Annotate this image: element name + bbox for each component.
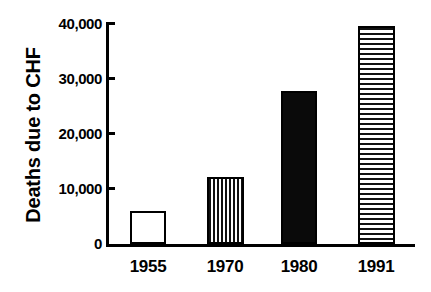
bar-1970	[207, 177, 244, 244]
bar-series	[0, 0, 431, 292]
bar-1980	[281, 91, 317, 244]
bar-1991	[358, 26, 395, 244]
bar-1955	[130, 211, 166, 244]
x-axis-tick-label-1991: 1991	[331, 257, 421, 277]
bar-chart-figure: Deaths due to CHF 40,000 30,000 20,000 1…	[0, 0, 431, 292]
